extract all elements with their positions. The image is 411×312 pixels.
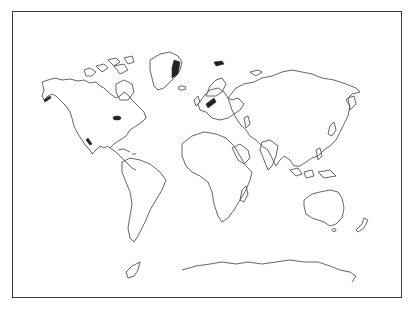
japan bbox=[328, 122, 336, 136]
hudson-bay bbox=[116, 80, 134, 100]
asia bbox=[228, 70, 360, 166]
philippines bbox=[316, 148, 322, 160]
british-isles bbox=[194, 96, 200, 106]
svalbard bbox=[214, 61, 224, 66]
novaya-zemlya bbox=[250, 70, 262, 76]
australia bbox=[304, 190, 344, 226]
new-zealand bbox=[356, 218, 368, 232]
north-america bbox=[42, 78, 146, 154]
scandinavia bbox=[206, 78, 226, 96]
baltic-sea bbox=[206, 98, 216, 108]
world-map bbox=[0, 0, 411, 312]
antarctic-peninsula bbox=[126, 262, 140, 278]
tasmania bbox=[332, 229, 336, 232]
great-lakes bbox=[113, 116, 121, 120]
gulf-of-california bbox=[86, 138, 92, 145]
kamchatka bbox=[348, 96, 356, 110]
antarctica bbox=[182, 260, 356, 282]
caribbean bbox=[118, 149, 136, 154]
canadian-archipelago bbox=[84, 56, 134, 76]
greenland-ice bbox=[172, 60, 180, 78]
caspian-sea bbox=[244, 116, 250, 128]
iceland bbox=[178, 86, 186, 90]
south-america bbox=[122, 158, 166, 242]
indonesia bbox=[290, 168, 336, 178]
central-america bbox=[110, 148, 136, 170]
